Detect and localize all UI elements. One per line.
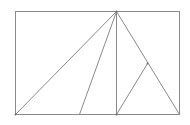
segment-foot-to-right-slant-point [117, 64, 148, 115]
geometry-diagram [0, 0, 190, 125]
segment-group [16, 12, 180, 115]
vertex-bottom-left [15, 114, 17, 116]
vertex-group [15, 11, 149, 116]
segment-apex-to-bottom-mid-left [80, 12, 117, 115]
segment-apex-to-bottom-left [16, 12, 117, 115]
vertex-foot [116, 114, 118, 116]
vertex-right-slant-point [147, 63, 149, 65]
vertex-apex [116, 11, 118, 13]
